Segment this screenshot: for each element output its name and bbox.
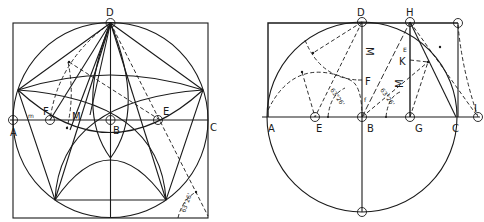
label-f: f <box>364 96 367 103</box>
dashed-K <box>410 60 428 62</box>
label-I: I <box>474 103 477 114</box>
dashed-B-H <box>362 22 410 117</box>
arc-left-sweep <box>55 90 203 200</box>
label-M-lower: M <box>394 79 405 88</box>
label-H: H <box>406 7 414 18</box>
right-diagram: D H A E B G C I K F M M f E 63°26' 63°26… <box>262 7 483 217</box>
label-D: D <box>106 7 114 18</box>
angle-label-right: 63°26' <box>379 87 396 108</box>
label-E: E <box>163 106 169 117</box>
left-diagram: D A B C E F M m 63°26' <box>9 7 218 218</box>
star-line <box>111 23 167 200</box>
label-m: m <box>28 112 34 119</box>
label-F: F <box>43 106 49 117</box>
label-F: F <box>365 76 371 87</box>
label-D: D <box>357 7 365 18</box>
angle-label-left: 63°26' <box>329 87 346 108</box>
geometry-figure: D A B C E F M m 63°26' <box>0 0 484 222</box>
label-e: E <box>403 46 407 53</box>
label-G: G <box>415 123 423 134</box>
label-E: E <box>316 123 322 134</box>
line-H-C <box>410 22 456 117</box>
star-line <box>55 23 111 200</box>
label-M-upper: M <box>364 47 375 56</box>
angle-label: 63°26' <box>179 192 193 213</box>
label-C: C <box>452 123 459 134</box>
label-C: C <box>210 122 217 133</box>
dashed-B-K <box>362 62 428 117</box>
frame-top-left <box>268 23 458 117</box>
label-B: B <box>113 125 120 136</box>
label-K: K <box>399 56 406 67</box>
dashed-arc-M <box>67 62 71 128</box>
dashed-D-arc <box>313 22 362 53</box>
label-B: B <box>367 123 374 134</box>
dashed-G-K <box>410 62 428 117</box>
label-M: M <box>72 111 81 122</box>
dashed-E-arc <box>302 72 315 117</box>
label-A: A <box>10 127 17 138</box>
label-A: A <box>268 123 275 134</box>
